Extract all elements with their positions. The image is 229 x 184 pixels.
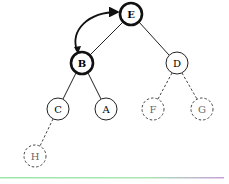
- edge-e-d: [139, 22, 169, 55]
- node-a-label: A: [101, 104, 110, 115]
- edge-d-g: [182, 73, 197, 99]
- node-e: E: [120, 3, 142, 25]
- node-d: D: [166, 52, 188, 74]
- node-g: G: [191, 98, 213, 120]
- edge-b-c: [63, 73, 76, 99]
- edge-d-f: [158, 73, 172, 99]
- node-c-label: C: [54, 104, 62, 115]
- node-f-label: F: [150, 104, 157, 115]
- swap-arrow: [75, 12, 118, 51]
- node-d-label: D: [173, 58, 181, 69]
- node-b-label: B: [78, 58, 86, 69]
- node-h: H: [24, 145, 46, 167]
- node-b: B: [71, 52, 93, 74]
- tree-diagram: E B D C A F G H: [0, 0, 229, 184]
- node-c: C: [47, 98, 69, 120]
- node-f: F: [142, 98, 164, 120]
- node-g-label: G: [198, 104, 206, 115]
- node-a: A: [95, 98, 117, 120]
- edge-b-a: [88, 73, 101, 99]
- bottom-rule: [0, 177, 224, 179]
- node-e-label: E: [127, 9, 135, 20]
- edge-c-h: [40, 119, 53, 146]
- edge-e-b: [90, 22, 123, 55]
- node-h-label: H: [31, 151, 40, 162]
